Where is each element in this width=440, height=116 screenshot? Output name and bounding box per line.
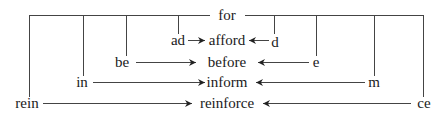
- row-inform: in inform m: [76, 74, 380, 90]
- prefix-be: be: [115, 54, 130, 70]
- prefix-in: in: [76, 74, 88, 90]
- suffix-d: d: [271, 34, 279, 50]
- word-before: before: [208, 54, 247, 70]
- suffix-ce: ce: [417, 95, 431, 111]
- prefix-ad: ad: [171, 32, 186, 48]
- prefix-rein: rein: [15, 95, 39, 111]
- suffix-m: m: [368, 74, 380, 90]
- word-afford: afford: [209, 32, 246, 48]
- suffix-e: e: [313, 54, 320, 70]
- word-formation-diagram: for ad afford d be before e in inform m …: [0, 0, 440, 116]
- row-afford: ad afford d: [171, 32, 279, 50]
- root-word: for: [218, 7, 236, 23]
- row-reinforce: rein reinforce ce: [15, 95, 431, 111]
- word-reinforce: reinforce: [200, 95, 254, 111]
- word-inform: inform: [207, 74, 248, 90]
- row-before: be before e: [115, 54, 320, 70]
